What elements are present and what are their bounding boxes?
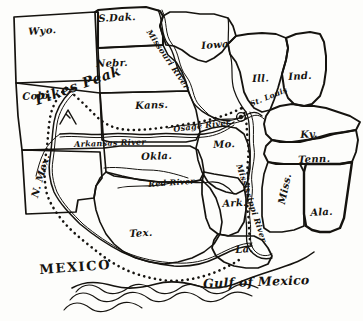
wyoming-border <box>14 12 98 83</box>
alabama-state-label: Ala. <box>310 207 333 218</box>
alabama-border <box>304 162 352 232</box>
illinois-state-label: Ill. <box>252 73 269 84</box>
arkansas-state-label: Ark. <box>222 198 247 209</box>
kansas-state-label: Kans. <box>135 100 168 111</box>
pikes-peak-glyph <box>60 110 76 124</box>
south-dakota-state-label: S.Dak. <box>98 12 136 24</box>
st-louis-marker-dot <box>239 115 243 119</box>
missouri-state-label: Mo. <box>213 139 235 150</box>
arkansas-river-label: Arkansas River <box>74 137 146 148</box>
indiana-border <box>282 32 326 106</box>
gulf-wave-3 <box>64 302 142 311</box>
iowa-state-label: Iowa <box>201 39 229 51</box>
kentucky-state-label: Ky. <box>300 129 318 140</box>
texas-state-label: Tex. <box>129 228 153 239</box>
oklahoma-state-label: Okla. <box>141 151 172 162</box>
tennessee-state-label: Tenn. <box>298 154 331 165</box>
louisiana-purchase-map: Wyo.S.Dak.Nebr.IowaIll.Ind.Colo.Kans.Mo.… <box>0 0 363 321</box>
wyoming-state-label: Wyo. <box>28 25 57 37</box>
louisiana-state-label: La. <box>235 244 253 255</box>
indiana-state-label: Ind. <box>288 71 312 82</box>
